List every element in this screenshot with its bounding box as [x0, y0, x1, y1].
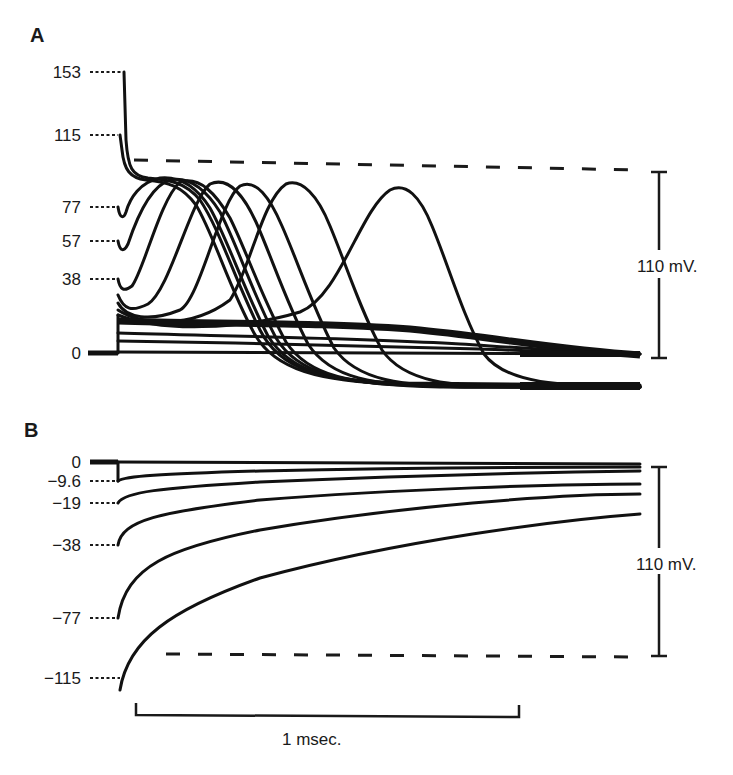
tick-label-neg38: −38	[52, 536, 81, 555]
tick-label-57: 57	[62, 232, 81, 251]
panel-a-tick-labels: 153 115 77 57 38 0	[53, 63, 81, 363]
tick-label-153: 153	[53, 63, 81, 82]
panel-a: A 153 115 77 57 38 0	[30, 24, 698, 387]
tick-label-115: 115	[54, 126, 81, 145]
tick-label-0: 0	[72, 453, 81, 472]
figure: A 153 115 77 57 38 0	[0, 0, 733, 775]
panel-a-envelope-dashed-line	[134, 160, 640, 170]
panel-b-leaders	[90, 481, 120, 678]
panel-a-label: A	[30, 24, 44, 46]
tick-label-77: 77	[62, 198, 81, 217]
panel-a-scale-bar: 110 mV.	[637, 172, 698, 358]
tick-label-neg115: −115	[44, 669, 81, 688]
tick-label-38: 38	[62, 270, 81, 289]
panel-a-scale-label: 110 mV.	[637, 257, 698, 276]
tick-label-neg77: −77	[52, 609, 81, 628]
tick-label-0: 0	[72, 344, 81, 363]
panel-a-traces	[88, 72, 640, 387]
time-scale-bar: 1 msec.	[136, 703, 519, 749]
panel-b: B 0 −9.6 −19 −38 −77 −115	[24, 419, 697, 749]
tick-label-neg9-6: −9.6	[47, 472, 81, 491]
panel-b-label: B	[24, 419, 38, 441]
panel-b-envelope-dashed-line	[166, 654, 640, 657]
tick-label-neg19: −19	[52, 494, 81, 513]
panel-b-scale-bar: 110 mV.	[636, 467, 697, 656]
panel-b-tick-labels: 0 −9.6 −19 −38 −77 −115	[44, 453, 81, 688]
panel-b-scale-label: 110 mV.	[636, 555, 697, 574]
time-scale-label: 1 msec.	[282, 730, 342, 749]
